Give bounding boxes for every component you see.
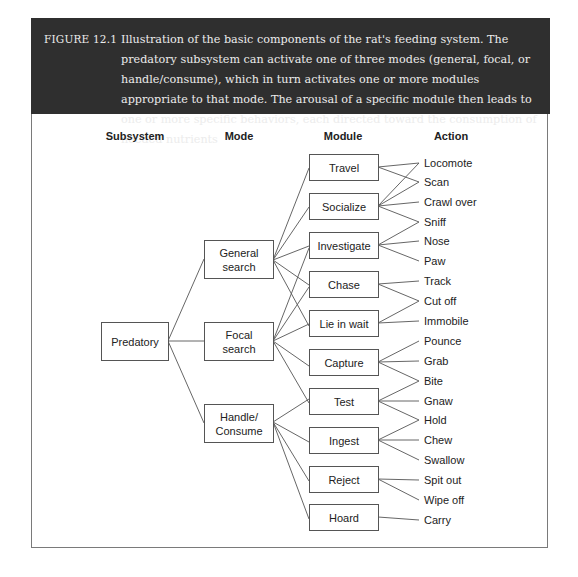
action-bite: Bite <box>424 375 443 387</box>
node-module-ingest: Ingest <box>309 427 379 454</box>
action-gnaw: Gnaw <box>424 395 453 407</box>
action-pounce: Pounce <box>424 335 461 347</box>
node-module-investigate: Investigate <box>309 232 379 259</box>
action-wipe-off: Wipe off <box>424 494 464 506</box>
connector-lines <box>0 0 578 577</box>
action-chew: Chew <box>424 434 452 446</box>
action-crawl-over: Crawl over <box>424 196 477 208</box>
node-module-capture: Capture <box>309 349 379 376</box>
node-module-socialize: Socialize <box>309 193 379 220</box>
action-track: Track <box>424 275 451 287</box>
action-locomote: Locomote <box>424 157 472 169</box>
node-module-lie-in-wait: Lie in wait <box>309 310 379 337</box>
node-subsystem-predatory: Predatory <box>101 322 169 361</box>
node-mode-handle-consume: Handle/ Consume <box>204 404 274 443</box>
action-grab: Grab <box>424 355 448 367</box>
action-hold: Hold <box>424 414 447 426</box>
node-module-reject: Reject <box>309 466 379 493</box>
action-paw: Paw <box>424 255 445 267</box>
action-nose: Nose <box>424 235 450 247</box>
action-spit-out: Spit out <box>424 474 461 486</box>
action-scan: Scan <box>424 176 449 188</box>
node-mode-focal-search: Focal search <box>204 322 274 361</box>
node-module-travel: Travel <box>309 154 379 181</box>
node-module-test: Test <box>309 388 379 415</box>
action-cut-off: Cut off <box>424 295 456 307</box>
action-sniff: Sniff <box>424 216 446 228</box>
action-immobile: Immobile <box>424 315 469 327</box>
node-module-hoard: Hoard <box>309 504 379 531</box>
node-mode-general-search: General search <box>204 240 274 279</box>
action-carry: Carry <box>424 514 451 526</box>
action-swallow: Swallow <box>424 454 464 466</box>
node-module-chase: Chase <box>309 271 379 298</box>
